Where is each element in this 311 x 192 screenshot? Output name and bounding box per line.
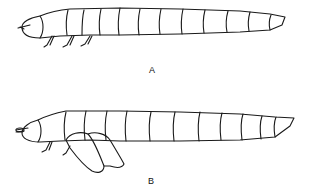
diagram-canvas bbox=[0, 0, 311, 192]
panel-label-a: A bbox=[149, 65, 155, 75]
larva-a-drawing bbox=[18, 8, 285, 47]
panel-label-b: B bbox=[148, 176, 154, 186]
larva-b-drawing bbox=[16, 111, 294, 172]
